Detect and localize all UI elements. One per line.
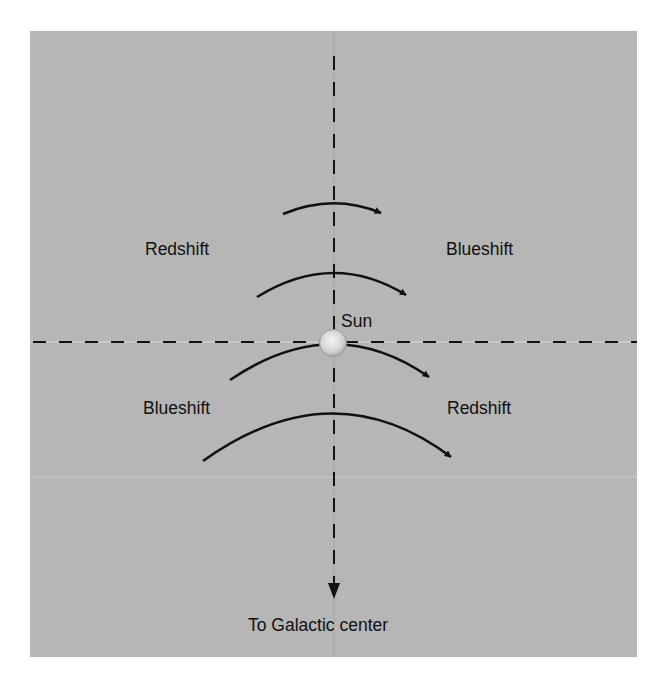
sun-icon bbox=[320, 330, 347, 357]
rotation-arrow-4 bbox=[203, 413, 451, 461]
rotation-arrow-2 bbox=[257, 273, 406, 297]
label-sun: Sun bbox=[341, 313, 372, 331]
galactic-center-arrowhead-icon bbox=[328, 583, 340, 599]
rotation-diagram bbox=[0, 0, 661, 683]
rotation-arrow-1 bbox=[283, 203, 381, 214]
label-galactic-center: To Galactic center bbox=[248, 617, 388, 635]
label-lower-right-redshift: Redshift bbox=[447, 400, 511, 418]
label-upper-right-blueshift: Blueshift bbox=[446, 241, 513, 259]
label-upper-left-redshift: Redshift bbox=[145, 241, 209, 259]
label-lower-left-blueshift: Blueshift bbox=[143, 400, 210, 418]
